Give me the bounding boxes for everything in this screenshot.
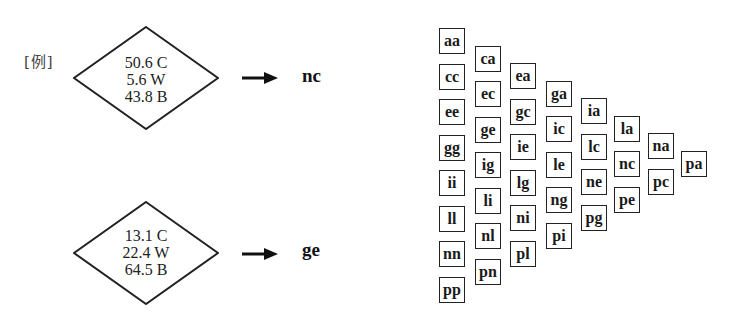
code-tile-ic: ic xyxy=(546,116,572,142)
code-tile-ga: ga xyxy=(546,81,572,107)
code-tile-na: na xyxy=(648,133,674,159)
code-tile-pl: pl xyxy=(510,241,536,267)
ratio-diamond-1: 50.6 C 5.6 W 43.8 B xyxy=(73,26,219,130)
code-tile-li: li xyxy=(475,188,501,214)
code-tile-ca: ca xyxy=(475,46,501,72)
code-tile-nl: nl xyxy=(475,223,501,249)
diamond-line-w: 5.6 W xyxy=(73,71,219,88)
diamond-line-c: 50.6 C xyxy=(73,54,219,71)
code-tile-ie: ie xyxy=(510,134,536,160)
code-tile-la: la xyxy=(614,116,640,142)
code-tile-pa: pa xyxy=(681,151,707,177)
result-code-1: nc xyxy=(302,65,321,87)
code-tile-gc: gc xyxy=(510,99,536,125)
arrow-right-icon xyxy=(242,72,278,84)
code-tile-ig: ig xyxy=(475,152,501,178)
code-tile-aa: aa xyxy=(439,28,465,54)
diamond-line-c: 13.1 C xyxy=(73,227,219,244)
code-tile-ll: ll xyxy=(439,206,465,232)
diamond-line-b: 64.5 B xyxy=(73,261,219,278)
code-tile-ia: ia xyxy=(581,98,607,124)
result-code-2: ge xyxy=(302,239,320,261)
code-tile-ee: ee xyxy=(439,99,465,125)
code-tile-ge: ge xyxy=(475,117,501,143)
code-tile-pc: pc xyxy=(648,169,674,195)
code-tile-ea: ea xyxy=(510,63,536,89)
ratio-diamond-2: 13.1 C 22.4 W 64.5 B xyxy=(73,201,219,305)
code-tile-pi: pi xyxy=(546,223,572,249)
code-tile-nc: nc xyxy=(614,151,640,177)
code-tile-le: le xyxy=(546,152,572,178)
example-label: [例] xyxy=(24,50,54,71)
code-tile-pg: pg xyxy=(581,205,607,231)
code-tile-lg: lg xyxy=(510,170,536,196)
code-tile-nn: nn xyxy=(439,241,465,267)
code-tile-ng: ng xyxy=(546,187,572,213)
code-tile-ii: ii xyxy=(439,170,465,196)
code-tile-lc: lc xyxy=(581,134,607,160)
code-tile-ni: ni xyxy=(510,205,536,231)
arrow-right-icon xyxy=(242,248,278,260)
code-tile-ec: ec xyxy=(475,81,501,107)
code-tile-pn: pn xyxy=(475,259,501,285)
code-tile-ne: ne xyxy=(581,169,607,195)
diamond-line-w: 22.4 W xyxy=(73,244,219,261)
code-tile-pp: pp xyxy=(439,277,465,303)
code-tile-pe: pe xyxy=(614,187,640,213)
code-tile-gg: gg xyxy=(439,135,465,161)
code-tile-cc: cc xyxy=(439,64,465,90)
diamond-line-b: 43.8 B xyxy=(73,88,219,105)
